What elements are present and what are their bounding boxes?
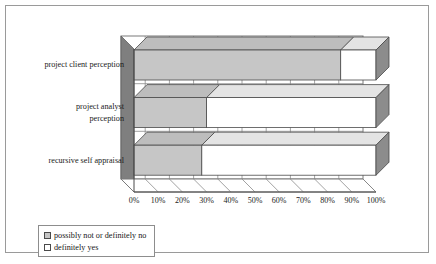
- x-tick-0: 0%: [121, 196, 147, 205]
- x-axis-tick-labels: 0% 10% 20% 30% 40% 50% 60% 70% 80% 90% 1…: [6, 6, 430, 254]
- x-tick-70: 70%: [290, 196, 316, 205]
- legend-swatch-gray-icon: [44, 232, 51, 239]
- x-tick-100: 100%: [363, 196, 389, 205]
- legend-label-series-1: possibly not or definitely no: [54, 231, 146, 240]
- x-tick-20: 20%: [169, 196, 195, 205]
- x-tick-40: 40%: [218, 196, 244, 205]
- x-tick-90: 90%: [339, 196, 365, 205]
- x-tick-80: 80%: [315, 196, 341, 205]
- legend-item-definitely-yes: definitely yes: [44, 241, 146, 253]
- chart-legend: possibly not or definitely no definitely…: [38, 225, 155, 257]
- legend-swatch-white-icon: [44, 244, 51, 251]
- x-tick-60: 60%: [266, 196, 292, 205]
- x-tick-50: 50%: [242, 196, 268, 205]
- legend-label-series-2: definitely yes: [54, 243, 98, 252]
- x-tick-10: 10%: [145, 196, 171, 205]
- chart-frame: project client perception project analys…: [5, 5, 429, 253]
- legend-item-possibly-not-or-definitely-no: possibly not or definitely no: [44, 229, 146, 241]
- x-tick-30: 30%: [194, 196, 220, 205]
